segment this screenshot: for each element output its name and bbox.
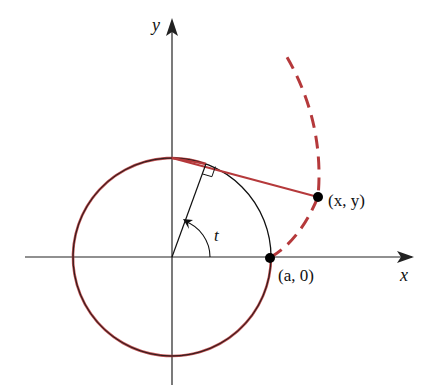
- involute-dashed-path: [271, 52, 319, 257]
- radius-line: [172, 164, 206, 257]
- tangent-string: [172, 158, 318, 197]
- y-axis-label: y: [150, 15, 160, 35]
- point-moving: [313, 192, 323, 202]
- involute-diagram: t (x, y) (a, 0) x y: [0, 0, 423, 390]
- angle-label: t: [214, 226, 220, 245]
- angle-arc: [185, 221, 210, 257]
- point-start-label: (a, 0): [278, 266, 314, 285]
- x-axis-label: x: [399, 265, 408, 285]
- point-start: [265, 253, 275, 263]
- point-moving-label: (x, y): [328, 191, 365, 210]
